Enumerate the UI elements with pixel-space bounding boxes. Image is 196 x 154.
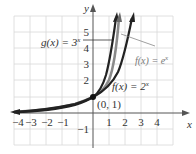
svg-text:4: 4 — [84, 42, 90, 54]
point-label: (0, 1) — [97, 98, 121, 111]
two-label: f(x) = 2x — [112, 80, 150, 93]
g-label: g(x) = 3x — [41, 36, 112, 49]
svg-text:1: 1 — [106, 116, 112, 128]
left-arrow-icon — [10, 109, 20, 115]
svg-text:3: 3 — [84, 58, 90, 70]
x-axis-arrow-icon — [182, 110, 190, 116]
y-axis-label: y — [83, 2, 89, 14]
svg-text:4: 4 — [154, 116, 160, 128]
svg-text:3: 3 — [138, 116, 144, 128]
svg-text:−2: −2 — [41, 116, 53, 128]
svg-text:5: 5 — [84, 26, 90, 38]
y-axis-arrow-icon — [90, 4, 96, 12]
point-0-1 — [90, 94, 96, 100]
svg-text:−1: −1 — [77, 123, 89, 135]
svg-text:2: 2 — [84, 74, 90, 86]
axes — [14, 8, 186, 148]
svg-text:g(x) = 3x: g(x) = 3x — [41, 36, 81, 49]
svg-text:−3: −3 — [25, 116, 37, 128]
svg-text:−1: −1 — [57, 116, 69, 128]
exponential-chart: y x −4 −3 −2 −1 1 2 3 4 5 4 3 2 −1 (0, 1… — [0, 0, 196, 154]
x-axis-label: x — [186, 118, 192, 130]
curve-2-x-arrow-icon — [129, 12, 135, 22]
svg-text:f(x) = ex: f(x) = ex — [135, 54, 169, 67]
svg-text:2: 2 — [122, 116, 128, 128]
svg-text:−4: −4 — [12, 116, 24, 128]
